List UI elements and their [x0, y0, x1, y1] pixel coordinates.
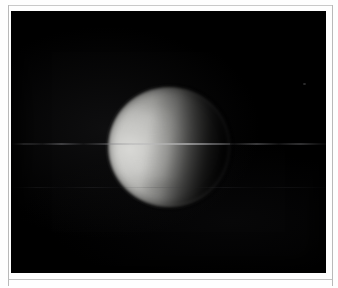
- frame-rule-left: [8, 5, 9, 286]
- frame-rule-top: [8, 5, 333, 6]
- background-speck: [303, 83, 306, 85]
- frame-rule-bottom: [8, 279, 333, 280]
- body-limb-falloff: [106, 85, 232, 209]
- frame-rule-right: [332, 5, 333, 286]
- image-viewport: [0, 0, 338, 288]
- planetary-body: [108, 87, 230, 207]
- astronomical-image-plate: [11, 11, 326, 273]
